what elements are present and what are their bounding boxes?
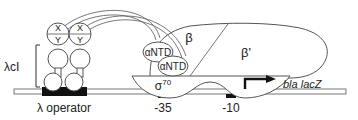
x-label-left: X (55, 23, 61, 33)
lambda-ci-bracket (36, 45, 40, 87)
alpha-ntd-2: αNTD (158, 56, 188, 76)
reporter-label: bla lacZ (283, 78, 323, 90)
minus10-label: -10 (222, 101, 240, 115)
beta-label: β (185, 30, 192, 45)
lambda-operator-label: λ operator (37, 101, 91, 115)
lambda-ci-dimer (44, 23, 91, 91)
y-label-right: Y (77, 35, 83, 45)
y-label-left: Y (55, 35, 61, 45)
minus35-label: -35 (154, 101, 172, 115)
alpha-ntd-2-label: αNTD (160, 61, 186, 72)
x-label-right: X (77, 23, 83, 33)
lambda-ci-label: λcI (4, 60, 19, 74)
beta-prime-label: β' (241, 45, 251, 60)
two-hybrid-diagram: αNTD αNTD X Y X Y λcI λ operator β β' σ7… (0, 0, 358, 120)
